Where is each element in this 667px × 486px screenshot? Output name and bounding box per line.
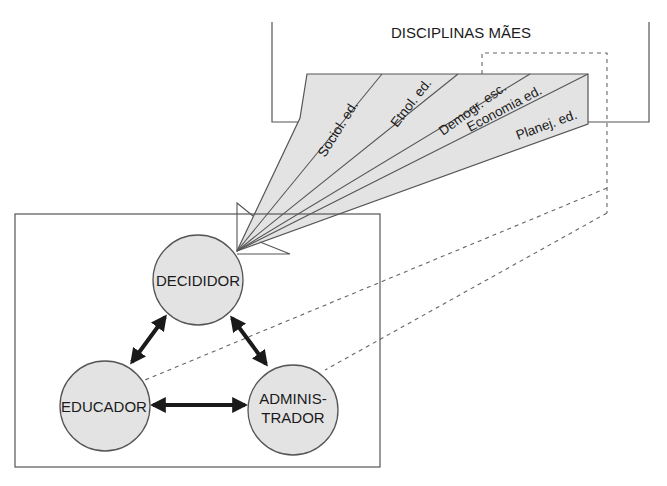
diagram-canvas: DISCIPLINAS MÃES Sociol. ed. Etnol. ed. … [0,0,667,486]
node-administrador: ADMINIS- TRADOR [248,365,338,455]
arrow-decididor-educador [132,317,165,362]
node-educador-label: EDUCADOR [61,398,147,415]
node-educador: EDUCADOR [60,361,150,451]
disciplinas-maes-title: DISCIPLINAS MÃES [391,24,531,41]
node-decididor-label: DECIDIDOR [156,272,240,289]
node-administrador-label-line2: TRADOR [261,409,325,426]
relation-arrows [132,317,266,405]
arrow-decididor-administrador [232,318,266,364]
node-administrador-label-line1: ADMINIS- [259,390,327,407]
node-decididor: DECIDIDOR [153,235,243,325]
